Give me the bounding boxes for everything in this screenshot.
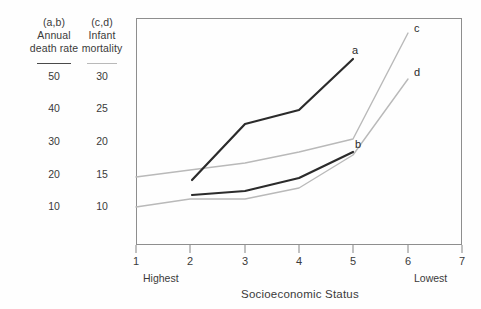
xtick-label-3: 3 bbox=[235, 255, 255, 267]
chart-figure: (a,b) Annual death rate 50 40 30 20 10 (… bbox=[0, 0, 481, 309]
left-scale-1-tick-10: 10 bbox=[37, 200, 71, 212]
left-scale-1-tick-30: 30 bbox=[37, 135, 71, 147]
series-label-c: c bbox=[414, 22, 420, 34]
xtick-label-1: 1 bbox=[126, 255, 146, 267]
x-axis-ticks bbox=[136, 245, 462, 253]
left-scale-1-tick-20: 20 bbox=[37, 168, 71, 180]
left-scale-2-tick-25: 25 bbox=[85, 102, 119, 114]
left-scale-2-name-line1: Infant bbox=[66, 29, 138, 42]
left-scale-1-tick-40: 40 bbox=[37, 102, 71, 114]
x-axis-title: Socioeconomic Status bbox=[200, 288, 400, 301]
xtick-label-4: 4 bbox=[289, 255, 309, 267]
xtick-label-2: 2 bbox=[180, 255, 200, 267]
left-scale-1-underline bbox=[37, 63, 71, 64]
series-label-b: b bbox=[355, 138, 361, 150]
left-scale-2-tick-20: 20 bbox=[85, 135, 119, 147]
left-scale-2-tick-10: 10 bbox=[85, 200, 119, 212]
series-label-d: d bbox=[414, 66, 420, 78]
left-scale-2-underline bbox=[87, 63, 117, 64]
left-scale-2-tick-15: 15 bbox=[85, 168, 119, 180]
left-scale-2-tick-30: 30 bbox=[85, 70, 119, 82]
series-label-a: a bbox=[352, 44, 358, 56]
left-scale-2-name-line2: mortality bbox=[66, 42, 138, 55]
xtick-label-5: 5 bbox=[343, 255, 363, 267]
x-extreme-highest: Highest bbox=[143, 272, 179, 284]
left-scale-2-group: (c,d) bbox=[66, 16, 138, 29]
plot-area bbox=[136, 18, 462, 245]
left-scale-1-tick-50: 50 bbox=[37, 70, 71, 82]
x-extreme-lowest: Lowest bbox=[414, 272, 447, 284]
xtick-label-6: 6 bbox=[398, 255, 418, 267]
left-scale-2-header: (c,d) Infant mortality bbox=[66, 16, 138, 55]
xtick-label-7: 7 bbox=[452, 255, 472, 267]
